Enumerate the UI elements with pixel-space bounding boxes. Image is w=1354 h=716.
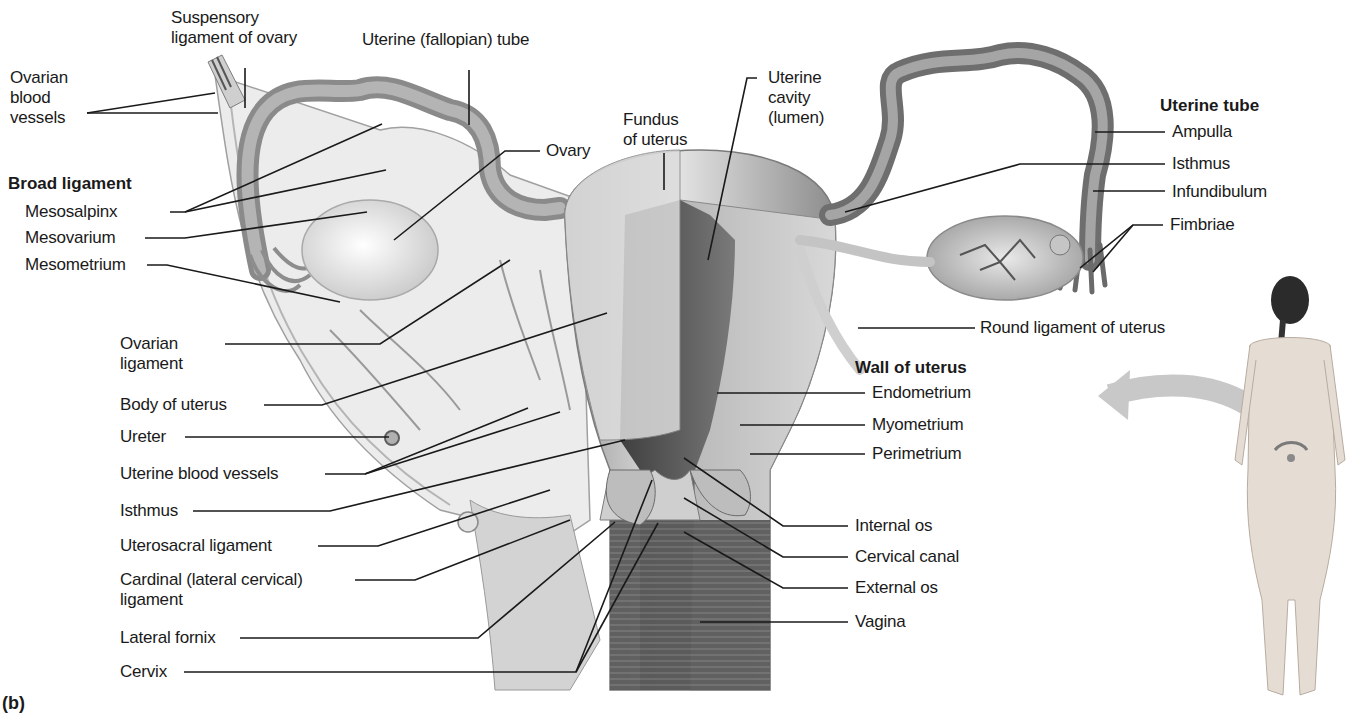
body-orientation-figure [1098,276,1345,695]
label-uterine-cavity: Uterine cavity (lumen) [768,68,824,128]
label-isthmus-right: Isthmus [1172,154,1230,174]
panel-label: (b) [2,693,25,714]
label-ampulla: Ampulla [1172,122,1232,142]
label-ovarian-blood-vessels: Ovarian blood vessels [10,68,68,128]
label-infundibulum: Infundibulum [1172,182,1267,202]
label-round-ligament: Round ligament of uterus [980,318,1165,338]
label-ovarian-ligament: Ovarian ligament [120,334,183,374]
label-ovary: Ovary [546,141,590,161]
label-perimetrium: Perimetrium [872,444,961,464]
label-ureter: Ureter [120,427,166,447]
label-uterine-blood-vessels: Uterine blood vessels [120,464,278,484]
label-cardinal-ligament: Cardinal (lateral cervical) ligament [120,570,303,610]
label-suspensory-ligament: Suspensory ligament of ovary [171,8,297,48]
label-external-os: External os [855,578,938,598]
label-fimbriae: Fimbriae [1170,215,1235,235]
label-isthmus-left: Isthmus [120,501,178,521]
label-endometrium: Endometrium [872,383,971,403]
label-myometrium: Myometrium [872,415,964,435]
label-fundus: Fundus of uterus [623,110,687,150]
label-lateral-fornix: Lateral fornix [120,628,215,648]
broad-ligament-header: Broad ligament [8,174,132,194]
label-uterine-fallopian-tube: Uterine (fallopian) tube [362,30,529,50]
wall-of-uterus-header: Wall of uterus [855,358,967,378]
label-mesosalpinx: Mesosalpinx [25,202,117,222]
label-body-of-uterus: Body of uterus [120,395,227,415]
label-mesometrium: Mesometrium [25,255,126,275]
label-cervix: Cervix [120,662,167,682]
label-vagina: Vagina [855,612,905,632]
label-mesovarium: Mesovarium [25,228,116,248]
label-uterosacral-ligament: Uterosacral ligament [120,536,272,556]
label-cervical-canal: Cervical canal [855,547,959,567]
uterus-anatomy-diagram: Broad ligament Uterine tube Wall of uter… [0,0,1354,716]
label-internal-os: Internal os [855,516,932,536]
uterine-tube-header: Uterine tube [1160,96,1259,116]
